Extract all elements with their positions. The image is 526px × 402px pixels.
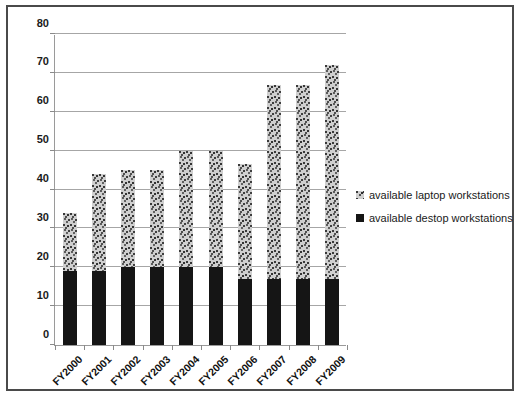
y-tick-label-0: 0 (43, 328, 49, 340)
bar-segment-laptop[interactable] (325, 65, 339, 279)
y-tick-label-20: 20 (37, 250, 49, 262)
gridline-80 (55, 33, 346, 34)
y-tick-label-70: 70 (37, 55, 49, 67)
x-tick-label-fy2003: FY2003 (138, 353, 172, 387)
bar-segment-desktop[interactable] (267, 279, 281, 345)
bar-slot (84, 35, 113, 345)
x-tick-mark (143, 345, 144, 350)
x-tick-label-fy2009: FY2009 (313, 353, 347, 387)
x-tick-label-fy2008: FY2008 (284, 353, 318, 387)
x-tick-label-fy2007: FY2007 (254, 353, 288, 387)
x-tick-label-fy2001: FY2001 (79, 353, 113, 387)
gray-pattern-swatch-icon (356, 191, 364, 199)
bar-series-group (55, 35, 346, 345)
bar-segment-laptop[interactable] (179, 151, 193, 268)
bar-segment-laptop[interactable] (150, 170, 164, 267)
y-tick-label-40: 40 (37, 172, 49, 184)
legend-item-laptop: available laptop workstations (356, 189, 513, 201)
bar-slot (318, 35, 347, 345)
bar-slot (259, 35, 288, 345)
x-tick-mark (84, 345, 85, 350)
bar-segment-desktop[interactable] (92, 271, 106, 345)
x-tick-mark (113, 345, 114, 350)
bar-segment-desktop[interactable] (209, 267, 223, 345)
bar-segment-laptop[interactable] (296, 85, 310, 279)
y-tick-label-80: 80 (37, 17, 49, 29)
x-tick-mark (318, 345, 319, 350)
x-tick-mark (55, 345, 56, 350)
bar-slot (289, 35, 318, 345)
bar-slot (172, 35, 201, 345)
bar-slot (230, 35, 259, 345)
y-tick-label-60: 60 (37, 94, 49, 106)
bar-segment-laptop[interactable] (238, 164, 252, 279)
y-tick-label-10: 10 (37, 289, 49, 301)
bar-segment-desktop[interactable] (121, 267, 135, 345)
bar-segment-desktop[interactable] (63, 271, 77, 345)
bar-slot (55, 35, 84, 345)
x-tick-label-fy2004: FY2004 (167, 353, 201, 387)
bar-segment-desktop[interactable] (325, 279, 339, 345)
bar-segment-desktop[interactable] (150, 267, 164, 345)
x-tick-mark (289, 345, 290, 350)
black-swatch-icon (356, 214, 364, 222)
x-tick-mark (172, 345, 173, 350)
x-tick-mark (259, 345, 260, 350)
legend-item-desktop: available destop workstations (356, 212, 513, 224)
bar-segment-laptop[interactable] (209, 151, 223, 268)
y-tick-mark-80 (50, 33, 55, 34)
y-tick-label-30: 30 (37, 211, 49, 223)
x-tick-label-fy2006: FY2006 (225, 353, 259, 387)
legend-label-desktop: available destop workstations (369, 212, 513, 224)
x-tick-label-fy2002: FY2002 (108, 353, 142, 387)
bar-segment-laptop[interactable] (267, 85, 281, 279)
bar-slot (113, 35, 142, 345)
bar-segment-desktop[interactable] (296, 279, 310, 345)
bar-segment-desktop[interactable] (238, 279, 252, 345)
bar-segment-laptop[interactable] (63, 213, 77, 271)
bar-slot (201, 35, 230, 345)
x-tick-mark (230, 345, 231, 350)
plot-area: 01020304050607080 FY2000FY2001FY2002FY20… (54, 35, 346, 346)
bar-segment-laptop[interactable] (121, 170, 135, 267)
bar-segment-laptop[interactable] (92, 174, 106, 271)
chart-legend: available laptop workstations available … (356, 189, 513, 235)
x-tick-mark (347, 345, 348, 350)
chart-frame: 01020304050607080 FY2000FY2001FY2002FY20… (6, 5, 514, 391)
x-tick-mark (201, 345, 202, 350)
legend-label-laptop: available laptop workstations (369, 189, 510, 201)
x-tick-label-fy2000: FY2000 (50, 353, 84, 387)
bar-slot (143, 35, 172, 345)
x-tick-label-fy2005: FY2005 (196, 353, 230, 387)
bar-segment-desktop[interactable] (179, 267, 193, 345)
y-tick-label-50: 50 (37, 133, 49, 145)
